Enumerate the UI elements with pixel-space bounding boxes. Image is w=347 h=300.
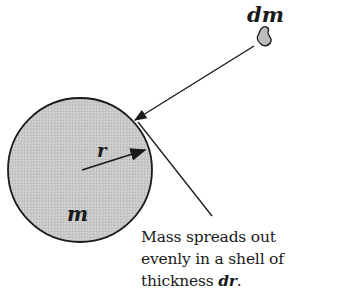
mass-element-blob-icon — [257, 27, 271, 46]
mass-label: m — [67, 204, 88, 224]
caption-text: Mass spreads out evenly in a shell of th… — [141, 226, 347, 292]
dm-infall-arrow — [135, 46, 254, 120]
caption-line-2: evenly in a shell of — [141, 248, 347, 270]
mass-element-label: dm — [247, 4, 284, 25]
caption-line-1: Mass spreads out — [141, 226, 347, 248]
caption-line-3: thickness dr. — [141, 270, 347, 292]
radius-label: r — [97, 142, 106, 160]
shell-thickness-variable: dr — [218, 271, 237, 290]
caption-line-3-suffix: . — [237, 272, 242, 290]
caption-line-3-prefix: thickness — [141, 272, 218, 290]
